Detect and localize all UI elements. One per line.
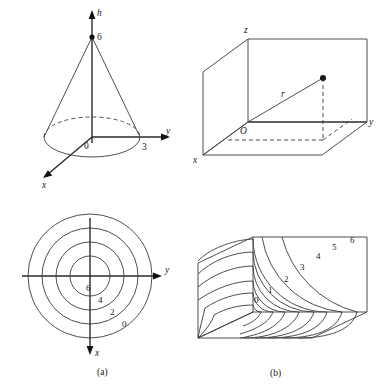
surface-level-label-6: 6: [350, 235, 355, 245]
caption-b: (b): [270, 368, 281, 379]
wall-contours: [253, 237, 357, 312]
caption-a: (a): [97, 367, 108, 378]
h-axis: [89, 10, 96, 143]
contour-x-axis-label: x: [94, 348, 100, 358]
box-y-axis-label: y: [368, 117, 374, 127]
cone-apex-value-label: 6: [97, 32, 102, 42]
panel-box: z y x O r: [192, 25, 374, 165]
surface-level-label-4: 4: [316, 251, 321, 261]
level-label-4: 4: [98, 295, 103, 305]
vector-r-label: r: [281, 89, 285, 99]
cone-radius-value-label: 3: [142, 142, 147, 152]
cone-x-axis-label: x: [41, 180, 47, 190]
vector-r-line: [248, 78, 323, 122]
panel-surface: 0 1 2 3 4 5 6: [198, 235, 367, 338]
panel-cone: h 6 y x 0 3: [41, 8, 171, 190]
surface-level-label-3: 3: [300, 262, 305, 272]
contour-y-axis-label: y: [164, 265, 170, 275]
floor-contours: [198, 308, 357, 338]
cone-origin-label: 0: [84, 141, 89, 151]
level-label-6: 6: [86, 283, 91, 293]
surface-level-label-0: 0: [254, 295, 259, 305]
y-axis: [92, 134, 170, 141]
surface-level-label-2: 2: [284, 274, 289, 284]
panel-contour: 6 4 2 0 y x: [22, 214, 170, 358]
box-origin-label: O: [240, 126, 247, 136]
level-label-2: 2: [110, 307, 115, 317]
cone-apex-point: [89, 34, 94, 39]
level-label-0: 0: [122, 319, 127, 329]
cone-y-axis-label: y: [165, 126, 171, 136]
figure-root: h 6 y x 0 3: [0, 0, 377, 388]
cone-h-axis-label: h: [97, 8, 102, 18]
box-z-axis-label: z: [243, 25, 248, 35]
surface-level-label-5: 5: [332, 242, 337, 252]
box-x-axis-label: x: [192, 155, 198, 165]
surface-level-label-1: 1: [268, 285, 273, 295]
figure-svg: h 6 y x 0 3: [0, 0, 377, 388]
cone-slant-right: [92, 37, 140, 137]
cone-slant-left: [44, 37, 92, 137]
